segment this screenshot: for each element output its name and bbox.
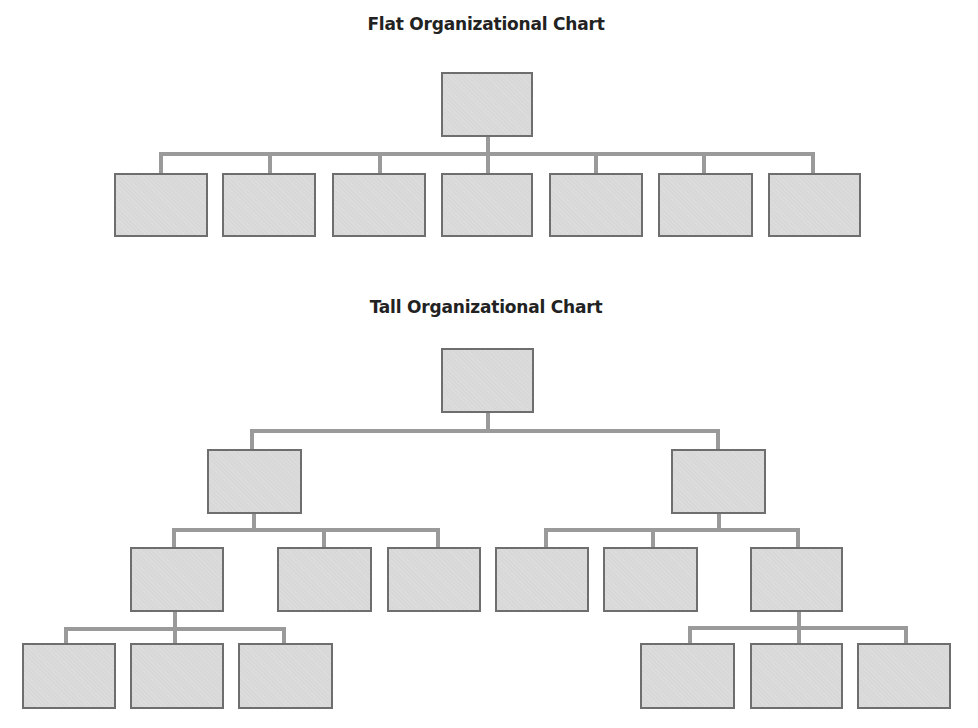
org-node: [222, 173, 316, 237]
org-node: [857, 643, 951, 709]
connector-line: [173, 612, 177, 628]
connector-line: [688, 628, 692, 643]
connector-line: [159, 154, 163, 173]
org-node: [750, 643, 843, 709]
org-node: [114, 173, 208, 237]
org-node: [768, 173, 861, 237]
connector-line: [486, 154, 490, 173]
flat-chart-title: Flat Organizational Chart: [367, 14, 604, 34]
org-node: [441, 173, 533, 237]
connector-line: [436, 530, 440, 547]
org-node: [603, 547, 698, 612]
tall-chart-title: Tall Organizational Chart: [370, 297, 603, 317]
connector-line: [322, 530, 326, 547]
connector-line: [268, 154, 272, 173]
org-node: [277, 547, 372, 612]
org-node: [750, 547, 843, 612]
connector-line: [796, 530, 800, 547]
org-node-root: [441, 72, 533, 137]
connector-line: [250, 429, 720, 433]
connector-line: [250, 431, 254, 449]
connector-line: [172, 528, 440, 532]
org-node: [207, 449, 302, 514]
org-node-root: [441, 348, 534, 413]
connector-line: [544, 528, 800, 532]
org-node: [387, 547, 481, 612]
org-node: [130, 643, 224, 709]
org-node: [238, 643, 333, 709]
connector-line: [716, 431, 720, 449]
org-node: [671, 449, 766, 514]
org-node: [549, 173, 643, 237]
connector-line: [378, 154, 382, 173]
org-node: [22, 643, 116, 709]
connector-line: [172, 530, 176, 547]
org-node: [495, 547, 589, 612]
org-node: [130, 547, 224, 612]
connector-line: [64, 629, 68, 643]
connector-line: [702, 154, 706, 173]
org-node: [640, 643, 735, 709]
connector-line: [544, 530, 548, 547]
connector-line: [282, 629, 286, 643]
connector-line: [173, 629, 177, 643]
connector-line: [651, 530, 655, 547]
connector-line: [797, 628, 801, 643]
org-node: [658, 173, 753, 237]
connector-line: [594, 154, 598, 173]
connector-line: [904, 628, 908, 643]
org-node: [332, 173, 426, 237]
connector-line: [811, 154, 815, 173]
